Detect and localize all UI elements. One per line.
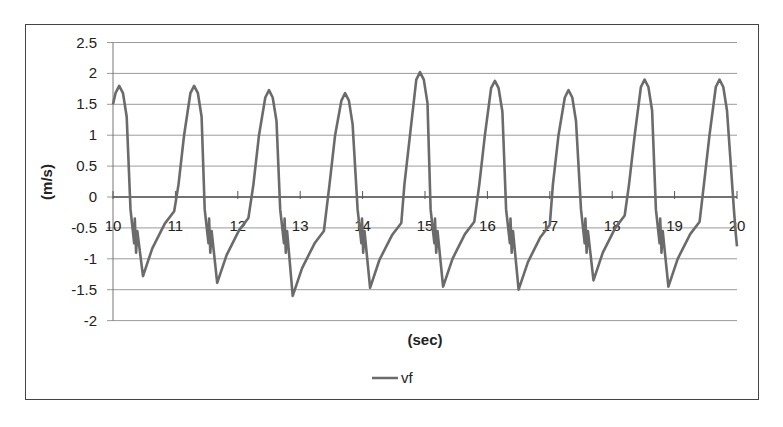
y-axis-ticks: 2.521.510.50-0.5-1-1.5-2 <box>71 34 97 329</box>
x-tick-label: 10 <box>105 217 122 234</box>
y-tick-label: 1.5 <box>76 95 97 112</box>
legend-label-vf: vf <box>401 369 414 386</box>
x-tick-label: 11 <box>168 217 184 234</box>
line-chart: 2.521.510.50-0.5-1-1.5-2 101112131415161… <box>0 0 783 427</box>
y-tick-label: -2 <box>84 312 97 329</box>
y-tick-label: 1 <box>89 126 97 143</box>
x-tick-label: 16 <box>479 217 496 234</box>
x-tick-label: 19 <box>666 217 683 234</box>
y-tick-label: 0.5 <box>76 157 97 174</box>
y-tick-label: -0.5 <box>71 219 97 236</box>
series-vf-line <box>113 72 737 296</box>
x-tick-label: 20 <box>729 217 746 234</box>
y-tick-label: 2.5 <box>76 34 97 51</box>
y-tick-label: 2 <box>89 64 97 81</box>
legend: vf <box>372 369 414 386</box>
x-tick-label: 13 <box>292 217 309 234</box>
y-tick-label: -1 <box>84 250 97 267</box>
y-tick-label: 0 <box>89 188 97 205</box>
y-tick-label: -1.5 <box>71 281 97 298</box>
x-axis-label: (sec) <box>407 331 442 348</box>
y-axis-label: (m/s) <box>38 164 55 200</box>
